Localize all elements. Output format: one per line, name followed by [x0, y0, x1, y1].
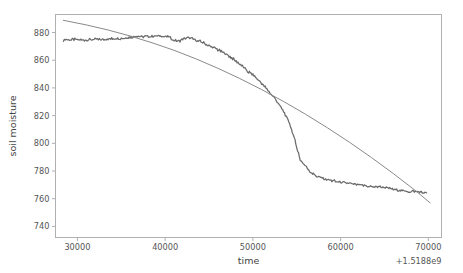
y-tick-label: 740: [34, 221, 50, 231]
y-axis-title: soil moisture: [7, 95, 18, 156]
plot-frame: [56, 15, 442, 238]
series-layer: [63, 20, 430, 203]
chart-figure: 3000040000500006000070000740760780800820…: [0, 0, 463, 273]
y-tick-label: 760: [34, 194, 50, 204]
y-tick-label: 860: [34, 55, 50, 65]
x-tick-label: 40000: [152, 242, 178, 252]
y-tick-label: 800: [34, 138, 50, 148]
x-tick-label: 30000: [64, 242, 90, 252]
y-tick-label: 780: [34, 166, 50, 176]
x-tick-label: 50000: [240, 242, 266, 252]
axes-layer: [52, 15, 442, 242]
series-line-fitted-trend: [63, 20, 430, 203]
chart-canvas: 3000040000500006000070000740760780800820…: [0, 0, 463, 273]
x-tick-label: 60000: [328, 242, 354, 252]
axis-labels-layer: 3000040000500006000070000740760780800820…: [7, 28, 442, 266]
series-line-measured: [63, 35, 426, 193]
x-tick-label: 70000: [415, 242, 441, 252]
y-tick-label: 820: [34, 111, 50, 121]
x-axis-title: time: [238, 255, 260, 266]
y-tick-label: 880: [34, 28, 50, 38]
y-tick-label: 840: [34, 83, 50, 93]
x-axis-offset-label: +1.5188e9: [396, 256, 442, 266]
